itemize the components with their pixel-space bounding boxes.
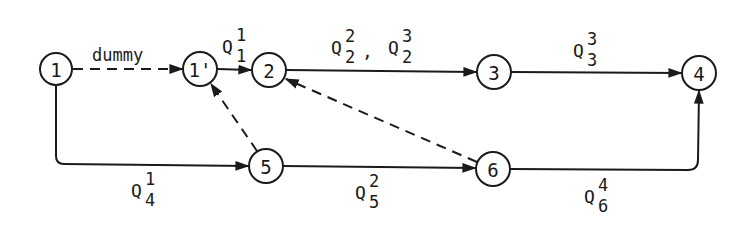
node-6-label: 6 [487,159,498,181]
edge-3-to-4 [511,72,681,73]
svg-text:Q: Q [388,37,399,58]
edge-1-to-5 [56,86,248,166]
edge-6-to-4 [510,91,699,170]
edge-label-q33: Q 3 3 [573,29,597,70]
svg-text:,: , [362,41,373,62]
svg-text:Q: Q [584,186,595,207]
edge-6-to-2 [286,79,477,162]
edge-label-dummy: dummy [92,45,143,65]
node-4-label: 4 [693,63,704,85]
node-3: 3 [477,55,511,89]
node-1prime-label: 1' [189,59,212,81]
edge-5-to-6 [283,166,475,168]
svg-text:2: 2 [345,47,355,67]
network-diagram: 1 1' 2 3 4 5 6 dummy Q 1 1 Q 2 2 , Q 3 2 [0,0,744,227]
node-3-label: 3 [488,62,499,84]
svg-text:2: 2 [369,171,379,191]
node-2-label: 2 [263,60,274,82]
edge-label-q46: Q 4 6 [584,175,608,216]
svg-text:Q: Q [355,182,366,203]
svg-text:3: 3 [587,50,597,70]
edge-label-q14: Q 1 4 [131,169,155,210]
node-4: 4 [682,56,716,90]
node-5: 5 [249,149,283,183]
edge-5-to-1prime [211,84,257,151]
svg-text:1: 1 [145,169,155,189]
node-1: 1 [40,53,72,85]
svg-text:1: 1 [236,46,246,66]
edge-label-q25: Q 2 5 [355,171,379,212]
node-1prime: 1' [183,52,217,86]
edge-label-q11: Q 1 1 [222,25,246,66]
svg-text:Q: Q [331,37,342,58]
svg-text:3: 3 [402,26,412,46]
svg-text:5: 5 [369,192,379,212]
node-6: 6 [476,152,510,186]
svg-text:1: 1 [236,25,246,45]
edge-2-to-3 [286,70,476,72]
svg-text:Q: Q [131,180,142,201]
svg-text:2: 2 [402,47,412,67]
node-2: 2 [252,53,286,87]
edges [56,69,699,170]
svg-text:4: 4 [145,190,155,210]
svg-text:Q: Q [222,36,233,57]
node-5-label: 5 [260,156,271,178]
svg-text:Q: Q [573,40,584,61]
svg-text:6: 6 [598,196,608,216]
svg-text:4: 4 [598,175,608,195]
node-1-label: 1 [50,59,61,81]
edge-label-q22-q32: Q 2 2 , Q 3 2 [331,26,412,67]
svg-text:3: 3 [587,29,597,49]
svg-text:2: 2 [345,26,355,46]
edge-1prime-to-2 [217,69,251,70]
